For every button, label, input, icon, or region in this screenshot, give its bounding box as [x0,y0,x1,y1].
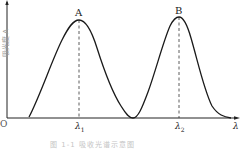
lambda2-tick-label: λ2 [175,122,185,133]
y-axis-label: 吸光度 A [0,29,10,57]
spectrum-chart [0,0,241,150]
x-axis-arrow-icon [234,116,240,119]
origin-label: O [0,120,7,129]
figure-caption: 图 1-1 吸收光谱示意图 [50,139,135,149]
spectrum-curve [29,17,231,118]
lambda1-subscript: 1 [81,126,85,133]
lambda2-subscript: 2 [181,126,185,133]
lambda1-tick-label: λ1 [75,122,85,133]
x-axis-label: λ [233,122,239,131]
peak-a-label: A [75,8,82,18]
y-axis-arrow-icon [5,0,8,5]
peak-b-label: B [175,6,182,16]
